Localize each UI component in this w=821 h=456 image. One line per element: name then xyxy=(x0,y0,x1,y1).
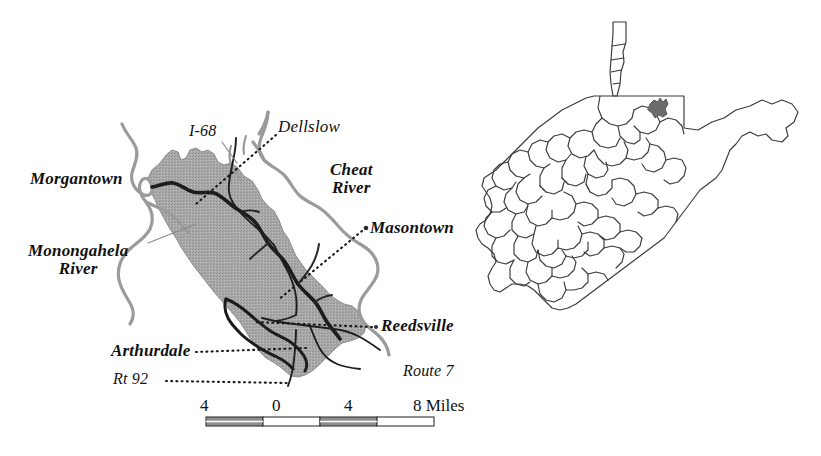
label-morgantown: Morgantown xyxy=(30,170,123,188)
dot-reedsville xyxy=(374,325,378,329)
scale-tick-zero: 0 xyxy=(272,396,281,416)
label-monongahela-river: Monongahela River xyxy=(28,242,128,278)
wv-inset-map xyxy=(476,22,798,310)
wv-state-outline xyxy=(476,96,798,310)
label-cheat-river-line1: Cheat xyxy=(330,161,373,179)
label-rt92: Rt 92 xyxy=(113,371,148,388)
label-arthurdale: Arthurdale xyxy=(111,342,190,360)
label-masontown: Masontown xyxy=(370,219,454,237)
label-i68: I-68 xyxy=(189,123,216,140)
scale-tick-left: 4 xyxy=(200,396,209,416)
scale-end-label: 8 Miles xyxy=(413,396,464,416)
scale-bar-graphic xyxy=(206,417,434,426)
dot-masontown xyxy=(364,226,369,231)
leader-rt92 xyxy=(166,381,290,383)
scale-tick-right: 4 xyxy=(344,396,353,416)
label-route7: Route 7 xyxy=(403,363,454,380)
label-monongahela-river-line2: River xyxy=(28,260,128,278)
label-cheat-river: Cheat River xyxy=(330,161,373,197)
label-cheat-river-line2: River xyxy=(330,179,373,197)
label-reedsville: Reedsville xyxy=(381,317,454,335)
label-dellslow: Dellslow xyxy=(278,118,340,136)
figure-root: Morgantown Monongahela River I-68 Dellsl… xyxy=(0,0,821,456)
label-monongahela-river-line1: Monongahela xyxy=(28,242,128,260)
study-area-highlight xyxy=(648,98,668,118)
